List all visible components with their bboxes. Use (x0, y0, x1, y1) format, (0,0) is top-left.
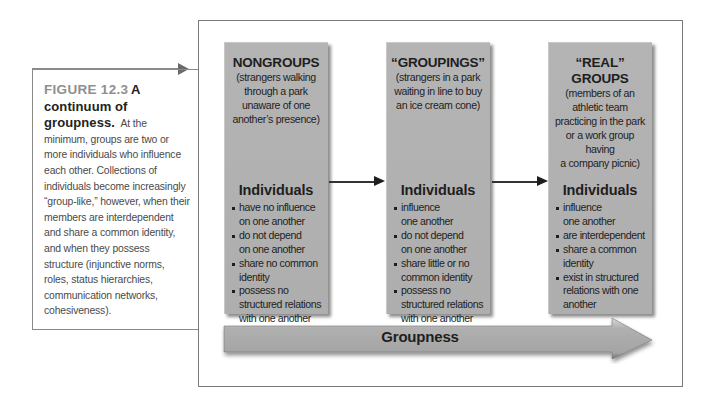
figure-caption-body: At the minimum, groups are two or more i… (44, 118, 190, 316)
list-item: have no influence on one another (231, 201, 325, 229)
panel-nongroups: NONGROUPS (strangers walking through a p… (224, 42, 328, 314)
list-item: share little or no common identity (393, 257, 487, 285)
list-item: are interdependent (555, 229, 649, 243)
list-item: do not depend on one another (231, 229, 325, 257)
list-item: do not depend on one another (393, 229, 487, 257)
panel-heading: Individuals (224, 182, 328, 198)
panel-description: (strangers walking through a park unawar… (224, 71, 328, 127)
arrow-right-icon (374, 176, 385, 186)
figure-page: FIGURE 12.3 A continuum of groupness. At… (0, 0, 714, 412)
figure-title-lead: A (131, 82, 141, 97)
panel-list: have no influence on one another do not … (231, 201, 325, 326)
panel-heading: Individuals (548, 182, 652, 198)
panel-title: “GROUPINGS” (386, 55, 490, 71)
groupness-label: Groupness (220, 328, 620, 345)
connector-line (329, 181, 375, 183)
panel-description: (members of an athletic team practicing … (548, 87, 652, 170)
figure-caption: FIGURE 12.3 A continuum of groupness. At… (32, 69, 199, 330)
panel-heading: Individuals (386, 182, 490, 198)
arrow-right-icon (537, 176, 548, 186)
panel-description: (strangers in a park waiting in line to … (386, 71, 490, 113)
list-item: exist in structured relations with one a… (555, 271, 649, 313)
figure-number: FIGURE 12.3 (44, 82, 128, 97)
list-item: share no common identity (231, 257, 325, 285)
panel-title: NONGROUPS (224, 55, 328, 71)
list-item: influence one another (555, 201, 649, 229)
list-item: share a common identity (555, 243, 649, 271)
panel-groupings: “GROUPINGS” (strangers in a park waiting… (386, 42, 490, 314)
panel-title: “REAL” GROUPS (548, 55, 652, 87)
panel-list: influence one another do not depend on o… (393, 201, 487, 326)
panel-list: influence one another are interdependent… (555, 201, 649, 312)
panel-real-groups: “REAL” GROUPS (members of an athletic te… (548, 42, 652, 314)
list-item: influence one another (393, 201, 487, 229)
connector-line (492, 181, 538, 183)
figure-title: continuum of groupness. (44, 99, 128, 131)
